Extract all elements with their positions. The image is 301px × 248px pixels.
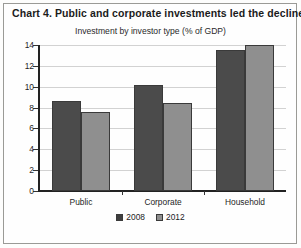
x-axis-label-household: Household [225,197,265,207]
legend-label: 2008 [126,213,145,221]
bar-household-2012 [245,45,274,191]
plot-wrapper: 02468101214 PublicCorporateHousehold [12,40,290,198]
x-axis-tick-mark [122,191,123,195]
x-axis-tick-mark [204,191,205,195]
bars-layer [40,45,286,191]
bar-public-2012 [81,112,110,191]
y-axis-tick-labels: 02468101214 [12,40,34,191]
chart-legend: 20082012 [0,213,301,221]
bar-corporate-2012 [163,103,192,191]
chart-screenshot: Chart 4. Public and corporate investment… [0,0,301,248]
bar-corporate-2008 [134,85,163,191]
chart-title: Chart 4. Public and corporate investment… [12,7,290,19]
legend-swatch-icon [156,214,163,221]
legend-item-2012: 2012 [156,213,185,221]
legend-label: 2012 [166,213,185,221]
bar-public-2008 [52,101,81,191]
legend-swatch-icon [116,214,123,221]
chart-subtitle: Investment by investor type (% of GDP) [0,26,301,36]
legend-item-2008: 2008 [116,213,145,221]
bar-household-2008 [216,50,245,191]
x-axis-label-corporate: Corporate [144,197,181,207]
x-axis-label-public: Public [70,197,93,207]
